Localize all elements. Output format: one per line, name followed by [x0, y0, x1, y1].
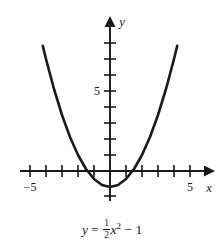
equation-fraction-one-half: 12	[103, 219, 110, 240]
y-axis-label: y	[117, 15, 125, 29]
x-tick-label-neg5: −5	[24, 180, 37, 194]
graph-canvas: −5 5 x 5 y	[0, 0, 224, 250]
x-axis: −5 5 x	[20, 165, 215, 195]
equation-caption: y = 12x2 − 1	[0, 219, 224, 240]
x-tick-label-5: 5	[187, 180, 193, 194]
equation-minus-glyph: −	[124, 222, 132, 237]
fraction-numerator: 1	[103, 219, 110, 229]
equation-constant: 1	[135, 222, 142, 237]
y-axis: 5 y	[94, 15, 125, 201]
fraction-denominator: 2	[103, 231, 110, 241]
y-tick-label-5: 5	[94, 84, 100, 98]
y-axis-arrowhead	[105, 16, 116, 27]
x-axis-label: x	[205, 181, 212, 195]
equation-equals-sign: =	[88, 222, 102, 237]
parabola-figure: −5 5 x 5 y	[0, 0, 224, 250]
x-axis-arrowhead	[204, 166, 215, 177]
